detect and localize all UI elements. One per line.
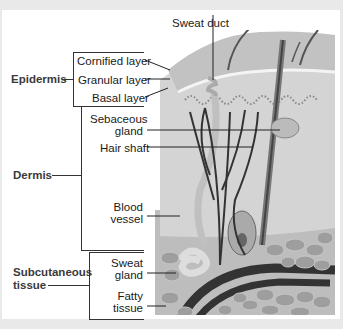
dermis-connector — [52, 175, 81, 176]
label-basal-layer: Basal layer — [92, 92, 149, 104]
label-sebaceous-gland: Sebaceous gland — [90, 113, 143, 137]
group-label-dermis: Dermis — [13, 169, 52, 182]
label-sweat-duct: Sweat duct — [172, 17, 229, 29]
label-blood-vessel: Blood vessel — [100, 201, 143, 225]
sebaceous-gland-shape — [271, 118, 299, 138]
group-label-subcutaneous: Subcutaneous tissue — [13, 266, 92, 292]
label-granular-layer: Granular layer — [78, 74, 151, 86]
label-cornified-layer: Cornified layer — [77, 55, 151, 67]
group-label-epidermis: Epidermis — [11, 73, 67, 86]
label-hair-shaft: Hair shaft — [100, 142, 149, 154]
label-sweat-gland: Sweat gland — [105, 257, 143, 281]
label-fatty-tissue: Fatty tissue — [105, 290, 143, 314]
